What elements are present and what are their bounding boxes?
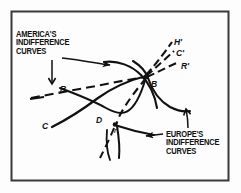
point-b-dot [144,74,149,79]
ray-c-prime [146,51,174,76]
diagram-canvas [0,0,241,193]
america-curve-through-b [133,61,190,111]
america-curve-pointer-arrow [62,58,110,65]
indifference-curves-figure: AMERICA'S INDIFFERENCE CURVES EUROPE'S I… [0,0,241,193]
america-curve-from-rprime [118,126,154,135]
europe-curve-upper [31,77,145,98]
point-rprime-dot [113,122,118,127]
contract-curve-cdb [52,76,146,127]
america-curve-below-d [117,126,119,158]
america-curve-upper [104,62,157,108]
ray-h-prime [146,42,172,75]
